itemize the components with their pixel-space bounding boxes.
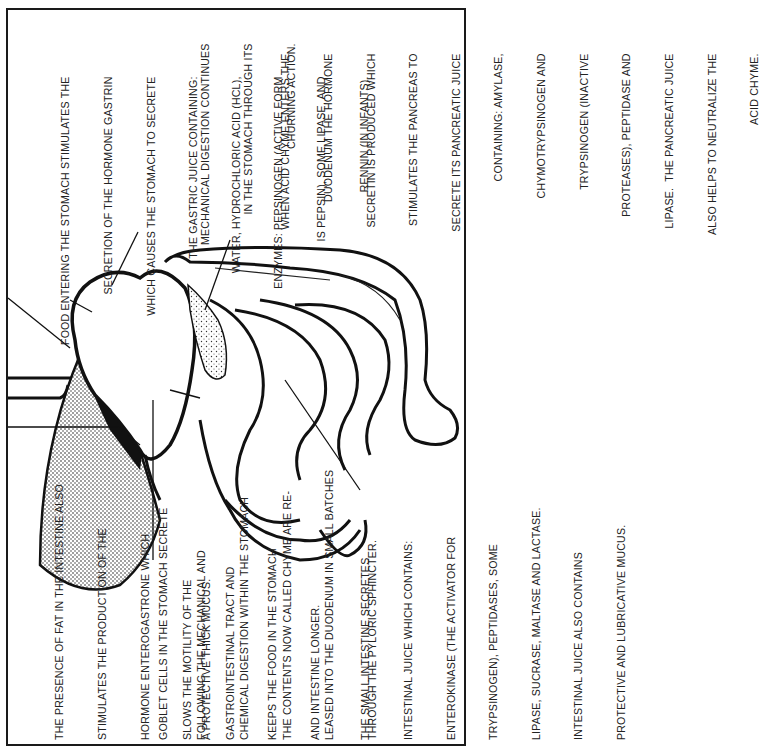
label-line: INTESTINAL JUICE WHICH CONTAINS: [401, 507, 415, 740]
label-line: MECHANICAL DIGESTION CONTINUES [198, 43, 212, 245]
label-line: PROTEASES), PEPTIDASE AND [619, 53, 633, 235]
label-line: PROTECTIVE AND LUBRICATIVE MUCUS. [614, 507, 628, 740]
label-line: LIPASE. THE PANCREATIC JUICE [662, 53, 676, 235]
label-line: ALSO HELPS TO NEUTRALIZE THE [705, 53, 719, 235]
label-line: SECRETIN IS PRODUCED WHICH [364, 53, 378, 235]
label-small-intestine-secretes: THE SMALL INTESTINE SECRETES INTESTINAL … [330, 507, 642, 740]
label-line: INTESTINAL JUICE ALSO CONTAINS [571, 507, 585, 740]
label-line: SECRETE ITS PANCREATIC JUICE [449, 53, 463, 235]
label-line: STIMULATES THE PRODUCTION OF THE [95, 484, 109, 740]
label-line: SECRETION OF THE HORMONE GASTRIN [101, 76, 115, 345]
label-line: THE PRESENCE OF FAT IN THE INTESTINE ALS… [52, 484, 66, 740]
label-line: STIMULATES THE PANCREAS TO [406, 53, 420, 235]
label-line: ENTEROKINASE (THE ACTIVATOR FOR [444, 507, 458, 740]
label-line: FOLLOWING THE MECHANICAL AND [194, 470, 208, 740]
label-line: DUODENUM THE HORMONE [321, 53, 335, 235]
label-line: CHEMICAL DIGESTION WITHIN THE STOMACH [237, 470, 251, 740]
label-line: TRYPSINOGEN (INACTIVE [577, 53, 591, 235]
label-line: FOOD ENTERING THE STOMACH STIMULATES THE [58, 76, 72, 345]
label-line: LIPASE, SUCRASE, MALTASE AND LACTASE. [529, 507, 543, 740]
label-line: CHYMOTRYPSINOGEN AND [534, 53, 548, 235]
label-line: WHEN ACID CHYME ENTERS THE [278, 53, 292, 235]
label-line: TRYPSINOGEN), PEPTIDASES, SOME [486, 507, 500, 740]
label-line: THE SMALL INTESTINE SECRETES [358, 507, 372, 740]
label-acid-chyme-secretin: WHEN ACID CHYME ENTERS THE DUODENUM THE … [250, 53, 763, 235]
label-line: THE CONTENTS NOW CALLED CHYME ARE RE- [280, 470, 294, 740]
label-line: CONTAINING: AMYLASE, [491, 53, 505, 235]
label-line: WHICH CAUSES THE STOMACH TO SECRETE [144, 76, 158, 345]
label-line: ACID CHYME. [747, 53, 761, 235]
